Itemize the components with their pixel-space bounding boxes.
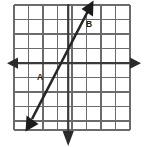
coordinate-grid-figure: A B — [0, 0, 147, 147]
point-label-b: B — [86, 19, 92, 29]
figure-background — [0, 0, 147, 147]
coordinate-grid-canvas: A B — [0, 0, 147, 147]
point-label-a: A — [37, 72, 43, 82]
